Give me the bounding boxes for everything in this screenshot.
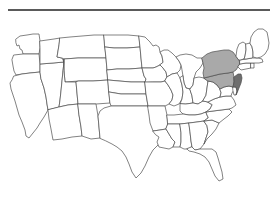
state-RI[interactable] <box>251 63 254 68</box>
state-MT[interactable] <box>57 35 106 59</box>
us-map-container <box>0 16 278 188</box>
state-ME[interactable] <box>250 29 269 58</box>
map-page <box>0 0 278 200</box>
state-NY[interactable] <box>202 50 240 78</box>
us-map-svg <box>0 16 278 188</box>
state-OK[interactable] <box>109 92 148 106</box>
bottom-caption <box>4 190 184 199</box>
state-NE[interactable] <box>107 68 146 82</box>
state-WA[interactable] <box>16 34 40 54</box>
state-KS[interactable] <box>108 80 146 94</box>
state-OR[interactable] <box>12 54 40 75</box>
state-SD[interactable] <box>105 47 142 70</box>
state-AZ[interactable] <box>48 104 82 140</box>
state-WY[interactable] <box>64 58 108 82</box>
state-CO[interactable] <box>76 80 110 104</box>
state-GA[interactable] <box>189 121 208 150</box>
state-MN[interactable] <box>139 36 163 68</box>
header-divider <box>8 9 270 11</box>
state-FL[interactable] <box>187 147 223 181</box>
state-ND[interactable] <box>104 35 140 48</box>
